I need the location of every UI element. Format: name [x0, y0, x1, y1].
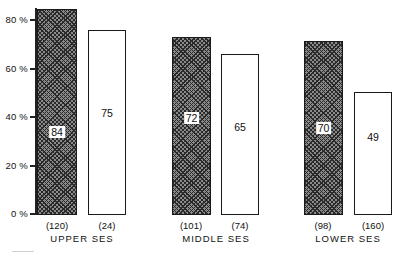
- y-tick-0: [30, 213, 36, 215]
- bar-value-label: 70: [316, 122, 332, 134]
- n-label: (120): [37, 220, 77, 231]
- y-tick-40: [30, 116, 36, 118]
- y-tick-80: [30, 19, 36, 21]
- group-label-middle-ses: MIDDLE SES: [161, 233, 271, 244]
- group-label-lower-ses: LOWER SES: [293, 233, 402, 244]
- y-tick-label-80: 80 %: [0, 15, 28, 25]
- bar-value-label: 72: [184, 112, 200, 124]
- bar-value-label: 49: [365, 131, 381, 143]
- y-tick-label-60: 60 %: [0, 64, 28, 74]
- bar-lower-ses-hatched: 70: [304, 41, 343, 215]
- bar-upper-ses-hatched: 84: [37, 9, 77, 215]
- bar-value-label: 75: [99, 107, 115, 119]
- n-label: (160): [353, 220, 393, 231]
- n-label: (74): [220, 220, 260, 231]
- n-label: (101): [171, 220, 211, 231]
- bar-lower-ses-open: 49: [354, 92, 392, 215]
- bar-upper-ses-open: 75: [88, 30, 126, 215]
- y-tick-label-0: 0 %: [0, 209, 28, 219]
- y-tick-60: [30, 68, 36, 70]
- bar-middle-ses-hatched: 72: [172, 37, 211, 215]
- n-label: (98): [303, 220, 343, 231]
- legend-swatch: [12, 251, 34, 252]
- group-label-upper-ses: UPPER SES: [27, 233, 137, 244]
- y-tick-20: [30, 165, 36, 167]
- bar-value-label: 65: [232, 121, 248, 133]
- bar-middle-ses-open: 65: [221, 54, 259, 215]
- y-tick-label-40: 40 %: [0, 112, 28, 122]
- n-label: (24): [87, 220, 127, 231]
- y-tick-label-20: 20 %: [0, 161, 28, 171]
- bar-value-label: 84: [49, 126, 65, 138]
